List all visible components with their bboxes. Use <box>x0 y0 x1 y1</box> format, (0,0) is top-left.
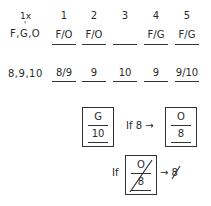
strike-through-icon <box>126 156 156 194</box>
condition-if: If <box>112 167 118 178</box>
row-label-letters: F,G,O <box>10 28 40 39</box>
column-header-5: 5 <box>175 10 199 21</box>
box2-top: O <box>166 111 196 122</box>
fraction-bar <box>171 125 191 126</box>
column-header-1: 1 <box>52 10 76 21</box>
note-box-o-over-8: O 8 <box>165 107 197 147</box>
row2-cell-5: 9/10 <box>175 67 199 82</box>
row1-cell-4: F/G <box>144 30 168 45</box>
row2-cell-3: 10 <box>113 67 137 82</box>
box2-bottom: 8 <box>166 128 196 139</box>
row2-cell-1: 8/9 <box>52 67 76 82</box>
underline <box>88 142 108 143</box>
row1-cell-5: F/G <box>175 30 199 45</box>
row2-cell-4: 9 <box>144 67 168 82</box>
column-header-3: 3 <box>113 10 137 21</box>
box1-bottom: 10 <box>83 128 113 139</box>
column-header-2: 2 <box>82 10 106 21</box>
strike-through-icon <box>170 164 182 180</box>
condition-if-8: If 8 → <box>126 120 154 131</box>
note-box-g-over-10: G 10 <box>82 107 114 147</box>
underline <box>171 142 191 143</box>
note-box-crossed-o-over-8: O 8 <box>125 155 157 195</box>
column-header-4: 4 <box>144 10 168 21</box>
box1-top: G <box>83 111 113 122</box>
row1-cell-1: F/O <box>52 30 76 45</box>
row-label-numbers: 8,9,10 <box>8 68 43 79</box>
fraction-bar <box>88 125 108 126</box>
row1-cell-2: F/O <box>82 30 106 45</box>
row2-cell-2: 9 <box>82 67 106 82</box>
multiplier-label: 1x <box>20 11 31 21</box>
row1-cell-3 <box>113 30 137 45</box>
